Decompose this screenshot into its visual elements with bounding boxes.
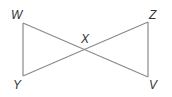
label-w: W [11, 9, 22, 21]
label-z: Z [149, 9, 156, 21]
diagram-canvas: W Z X Y V [0, 0, 172, 97]
label-y: Y [13, 79, 21, 91]
segment-yz [23, 22, 148, 76]
label-x: X [81, 33, 89, 45]
triangles-figure [0, 0, 172, 97]
label-v: V [149, 79, 157, 91]
